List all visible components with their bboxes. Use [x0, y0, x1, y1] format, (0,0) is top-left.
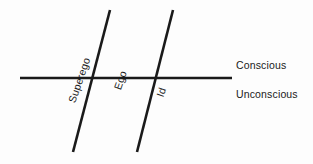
conscious-label: Conscious [236, 59, 286, 71]
unconscious-label: Unconscious [236, 88, 298, 100]
diagram-canvas [0, 0, 313, 164]
psyche-diagram: Conscious Unconscious Superego Ego Id [0, 0, 313, 164]
ego-id-divider-line [137, 10, 173, 152]
